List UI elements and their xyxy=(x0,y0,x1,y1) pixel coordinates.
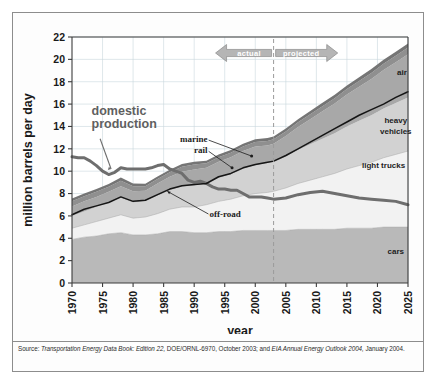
y-tick-label: 6 xyxy=(59,210,65,222)
x-tick-label: 1980 xyxy=(127,291,139,315)
callout-domestic-production-line2: production xyxy=(92,117,157,131)
figure-root: 0246810121416182022197019751980198519901… xyxy=(0,0,438,391)
x-ticks: 1970197519801985199019952000200520102015… xyxy=(66,283,414,314)
y-ticks: 0246810121416182022 xyxy=(53,31,72,289)
chart-area: 0246810121416182022197019751980198519901… xyxy=(12,12,424,334)
callout-off-road: off-road xyxy=(209,209,240,219)
callout-domestic-production-line1: domestic xyxy=(92,104,147,118)
source-note: Source: Transportation Energy Data Book:… xyxy=(13,341,423,371)
x-tick-label: 2005 xyxy=(280,291,292,315)
y-tick-label: 14 xyxy=(53,120,65,132)
y-tick-label: 4 xyxy=(59,232,65,244)
y-tick-label: 0 xyxy=(59,277,65,289)
x-tick-label: 1990 xyxy=(188,291,200,315)
callout-dot-marine xyxy=(250,155,253,158)
y-tick-label: 16 xyxy=(53,98,65,110)
area-band-cars xyxy=(72,227,408,283)
y-tick-label: 2 xyxy=(59,254,65,266)
source-eia-title: EIA Annual Energy Outlook xyxy=(272,345,347,352)
source-report-id: DOE/ORNL-6970, October 2003; and xyxy=(167,345,270,352)
y-axis-title: million barrels per day xyxy=(21,93,35,226)
x-tick-label: 1985 xyxy=(158,291,170,315)
x-axis-title: year xyxy=(227,324,253,334)
x-tick-label: 2025 xyxy=(402,291,414,315)
source-prefix: Source: xyxy=(18,345,39,352)
actual-arrow-label: actual xyxy=(237,49,260,58)
stacked-area-chart: 0246810121416182022197019751980198519901… xyxy=(12,12,424,334)
band-label-light-trucks: light trucks xyxy=(362,161,406,170)
x-tick-label: 1970 xyxy=(66,291,78,315)
y-tick-label: 20 xyxy=(53,53,65,65)
band-label-heavy-vehicles-line1: heavy xyxy=(384,116,407,125)
x-tick-label: 2000 xyxy=(249,291,261,315)
x-tick-label: 1975 xyxy=(97,291,109,315)
y-tick-label: 18 xyxy=(53,76,65,88)
band-label-heavy-vehicles-line2: vehicles xyxy=(380,127,412,136)
projected-arrow-label: projected xyxy=(283,49,320,58)
band-label-air: air xyxy=(397,68,407,77)
x-tick-label: 1995 xyxy=(219,291,231,315)
y-tick-label: 8 xyxy=(59,187,65,199)
x-tick-label: 2020 xyxy=(371,291,383,315)
source-book-title: Transportation Energy Data Book: Edition… xyxy=(41,345,165,352)
source-eia-year: 2004, xyxy=(348,345,364,352)
y-tick-label: 10 xyxy=(53,165,65,177)
y-tick-label: 22 xyxy=(53,31,65,43)
callout-dot-rail xyxy=(231,166,234,169)
y-tick-label: 12 xyxy=(53,143,65,155)
callout-rail: rail xyxy=(194,145,208,155)
x-tick-label: 2015 xyxy=(341,291,353,315)
source-eia-date: January 2004. xyxy=(365,345,404,352)
band-label-cars: cars xyxy=(388,247,405,256)
callout-marine: marine xyxy=(180,134,208,144)
x-tick-label: 2010 xyxy=(310,291,322,315)
